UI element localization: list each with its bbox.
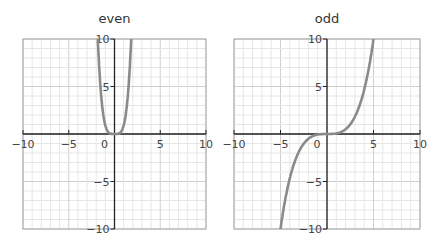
x-tick-label: −10 — [11, 138, 34, 151]
y-tick-label: −10 — [86, 223, 109, 236]
x-tick-label: −5 — [272, 138, 288, 151]
x-tick-label: 0 — [101, 138, 108, 151]
x-tick-label: 10 — [413, 138, 427, 151]
chart-title: even — [99, 11, 131, 26]
plot-odd: −10−50510105−5−10odd — [222, 11, 427, 243]
x-tick-label: −5 — [61, 138, 77, 151]
x-tick-label: −10 — [222, 138, 245, 151]
y-tick-label: 5 — [315, 81, 322, 94]
y-tick-label: −5 — [93, 176, 109, 189]
chart-title: odd — [315, 11, 339, 26]
chart-canvas: −10−50510105−5−10even−10−50510105−5−10od… — [0, 0, 441, 246]
y-tick-label: −5 — [306, 176, 322, 189]
x-tick-label: 10 — [199, 138, 213, 151]
y-tick-label: 5 — [103, 81, 110, 94]
x-tick-label: 5 — [370, 138, 377, 151]
x-tick-label: 5 — [157, 138, 164, 151]
x-tick-label: 0 — [314, 138, 321, 151]
y-tick-label: 10 — [308, 33, 322, 46]
plot-even: −10−50510105−5−10even — [11, 11, 213, 236]
y-tick-label: −10 — [299, 223, 322, 236]
